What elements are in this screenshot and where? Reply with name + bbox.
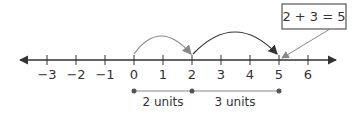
svg-text:−3: −3 (37, 67, 56, 82)
svg-text:−2: −2 (66, 67, 85, 82)
segment-label-2-units: 2 units (143, 95, 184, 109)
svg-text:3: 3 (217, 67, 225, 82)
svg-text:4: 4 (246, 67, 254, 82)
unit-segments: 2 units 3 units (132, 89, 282, 110)
svg-text:5: 5 (275, 67, 283, 82)
svg-text:−1: −1 (95, 67, 114, 82)
svg-text:1: 1 (159, 67, 167, 82)
jump-arc-0-to-2 (134, 36, 191, 54)
svg-text:0: 0 (130, 67, 138, 82)
equation-callout: 2 + 3 = 5 (282, 4, 346, 58)
tick-labels: −3 −2 −1 0 1 2 3 4 5 6 (37, 67, 312, 82)
svg-text:2: 2 (188, 67, 196, 82)
jump-arc-2-to-5 (193, 32, 277, 54)
svg-text:6: 6 (304, 67, 312, 82)
segment-label-3-units: 3 units (215, 95, 256, 109)
number-line-diagram: −3 −2 −1 0 1 2 3 4 5 6 2 + 3 = 5 2 units… (0, 0, 356, 115)
svg-text:2 + 3 = 5: 2 + 3 = 5 (282, 9, 345, 24)
